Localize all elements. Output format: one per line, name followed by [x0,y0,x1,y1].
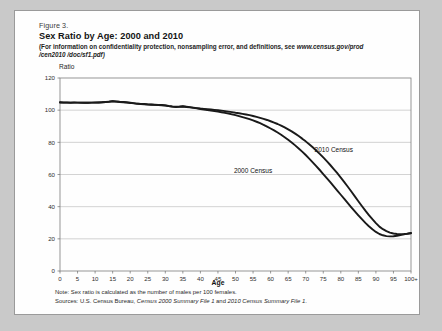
y-tick-labels: 020406080100120 [45,74,60,274]
x-tick-marks [60,271,411,274]
sources-footnote: Sources: U.S. Census Bureau, Census 2000… [55,298,307,304]
sources-title-2000: Census 2000 Summary File 1 [137,298,215,304]
svg-text:100: 100 [45,106,56,113]
sources-end: . [305,298,307,304]
svg-text:60: 60 [48,171,55,178]
svg-text:0: 0 [52,267,56,274]
sources-prefix: Sources: U.S. Census Bureau, [55,298,137,304]
note-text: Note: Sex ratio is calculated as the num… [55,289,237,295]
note-footnote: Note: Sex ratio is calculated as the num… [55,289,237,295]
gridlines [60,110,411,239]
sources-mid: and [214,298,227,304]
svg-text:120: 120 [45,74,56,81]
svg-text:80: 80 [48,139,55,146]
svg-text:20: 20 [48,235,55,242]
x-axis-title: Age [15,279,421,286]
sex-ratio-line-chart: 020406080100120 051015202530354045505560… [15,11,421,316]
series-label: 2010 Census [315,146,354,153]
document-page: Figure 3. Sex Ratio by Age: 2000 and 201… [14,10,420,315]
series-annotations: 2010 Census2000 Census [234,146,354,174]
series-label: 2000 Census [234,167,273,174]
svg-text:40: 40 [48,203,55,210]
sources-title-2010: 2010 Census Summary File 1 [228,298,306,304]
